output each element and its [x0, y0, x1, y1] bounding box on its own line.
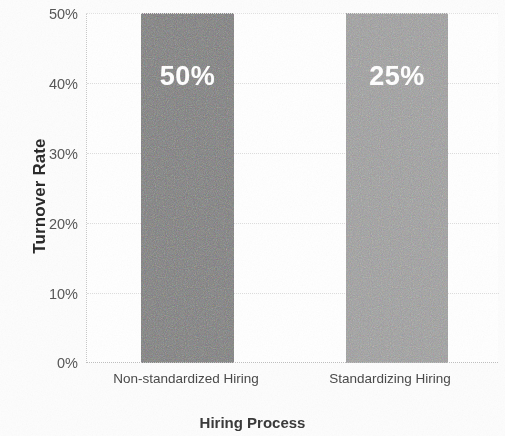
bar-chart-figure: Turnover Rate 50% 40% 30% 20% 10% 0% 50%: [0, 0, 505, 436]
bar-value-label: 25%: [346, 61, 448, 92]
y-axis-tick-labels: 50% 40% 30% 20% 10% 0%: [22, 0, 78, 436]
gridline-top: [86, 13, 498, 14]
y-tick-label: 40%: [22, 77, 78, 92]
x-tick-label-standardizing-hiring: Standardizing Hiring: [290, 371, 490, 386]
y-tick-label: 20%: [22, 217, 78, 232]
bar-value-label: 50%: [141, 61, 234, 92]
x-axis-title: Hiring Process: [0, 414, 505, 431]
x-tick-label-non-standardized-hiring: Non-standardized Hiring: [86, 371, 286, 386]
plot-area: 50% 25%: [86, 13, 498, 363]
bar-standardizing-hiring[interactable]: 25%: [346, 13, 448, 363]
y-tick-label: 30%: [22, 147, 78, 162]
y-tick-label: 50%: [22, 7, 78, 22]
y-tick-label: 0%: [22, 356, 78, 371]
x-axis-baseline: [86, 362, 498, 363]
bar-non-standardized-hiring[interactable]: 50%: [141, 13, 234, 363]
y-tick-label: 10%: [22, 287, 78, 302]
